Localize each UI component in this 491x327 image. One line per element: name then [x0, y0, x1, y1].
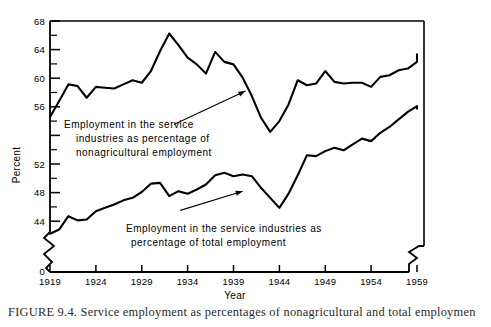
annotation-line: Employment in the service industries as — [126, 223, 322, 234]
y-tick-label: 64 — [34, 44, 45, 55]
x-axis-title: Year — [224, 290, 246, 300]
x-tick-label: 1949 — [314, 276, 336, 287]
y-tick-label: 44 — [34, 216, 45, 227]
annotation-line: percentage of total employment — [131, 237, 286, 248]
x-tick-label: 1954 — [360, 276, 382, 287]
x-tick-label: 1944 — [268, 276, 290, 287]
annotation-line: nonagricultural employment — [76, 147, 212, 158]
x-tick-label: 1939 — [223, 276, 245, 287]
figure-caption: FIGURE 9.4. Service employment as percen… — [8, 305, 491, 320]
x-tick-label: 1924 — [85, 276, 107, 287]
x-tick-label: 1929 — [131, 276, 153, 287]
y-tick-label: 52 — [34, 159, 45, 170]
x-tick-label: 1934 — [177, 276, 199, 287]
y-axis-minor-ticks — [50, 35, 57, 207]
upper-annotation-label: Employment in the service industries as … — [64, 119, 212, 158]
y-tick-label: 48 — [34, 187, 45, 198]
y-axis-title: Percent — [11, 147, 22, 184]
x-axis-baseline — [50, 246, 424, 272]
lower-annotation-label: Employment in the service industries as … — [126, 223, 322, 248]
x-axis-ticks — [50, 265, 417, 272]
y-axis-break-icon — [44, 232, 54, 272]
x-tick-label: 1959 — [406, 276, 428, 287]
series-line-nonagricultural — [50, 34, 417, 132]
chart-plot-area: 68 64 60 56 52 48 44 0 Percent 1919 1924… — [0, 0, 491, 300]
y-tick-label: 56 — [34, 101, 45, 112]
y-tick-label: 60 — [34, 73, 45, 84]
x-tick-label: 1919 — [39, 276, 61, 287]
figure-container: 68 64 60 56 52 48 44 0 Percent 1919 1924… — [0, 0, 491, 327]
annotation-line: Employment in the service — [64, 119, 194, 130]
annotation-line: industries as percentage of — [76, 133, 210, 144]
y-tick-label: 68 — [34, 16, 45, 27]
x-axis-tick-labels: 1919 1924 1929 1934 1939 1944 1949 1954 … — [39, 276, 428, 287]
